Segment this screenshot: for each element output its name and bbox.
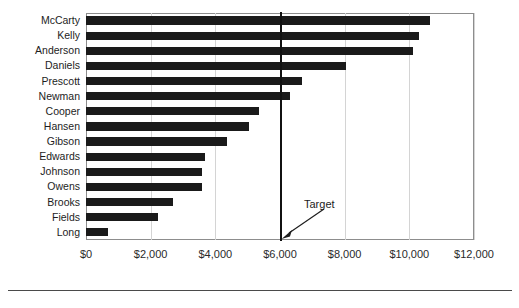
category-label: Hansen: [0, 119, 80, 134]
category-label: Cooper: [0, 104, 80, 119]
category-label: Newman: [0, 89, 80, 104]
category-label: Daniels: [0, 58, 80, 73]
category-label: Johnson: [0, 164, 80, 179]
category-label: McCarty: [0, 13, 80, 28]
category-label: Edwards: [0, 149, 80, 164]
x-tick-label: $12,000: [434, 248, 514, 260]
category-label: Gibson: [0, 134, 80, 149]
category-label: Anderson: [0, 43, 80, 58]
category-axis-labels: McCartyKellyAndersonDanielsPrescottNewma…: [0, 13, 519, 240]
category-label: Prescott: [0, 74, 80, 89]
category-label: Brooks: [0, 195, 80, 210]
bar-chart: McCartyKellyAndersonDanielsPrescottNewma…: [0, 0, 519, 308]
category-label: Owens: [0, 179, 80, 194]
category-label: Fields: [0, 210, 80, 225]
bottom-rule: [8, 290, 512, 291]
category-label: Long: [0, 225, 80, 240]
target-arrow-icon: [280, 205, 326, 241]
category-label: Kelly: [0, 28, 80, 43]
